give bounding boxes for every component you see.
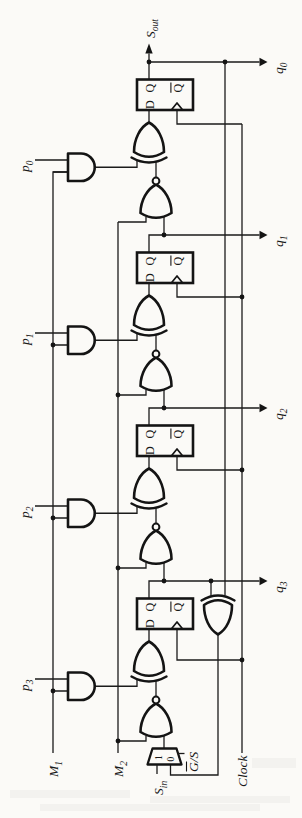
circuit-diagram-page: Q Q D p0 q0 [0, 0, 302, 818]
g-over-s-label: G/S [186, 751, 201, 772]
scan-smudge [10, 790, 130, 798]
scan-smudge [40, 804, 260, 811]
mux-input-1-label: 1 [154, 755, 164, 760]
scan-smudge [150, 796, 290, 803]
mux-input-0-label: 0 [166, 757, 176, 762]
lfsr-circuit-diagram: Q Q D p0 q0 [0, 0, 302, 818]
scan-smudge [252, 758, 296, 768]
clock-label: Clock [235, 755, 250, 787]
